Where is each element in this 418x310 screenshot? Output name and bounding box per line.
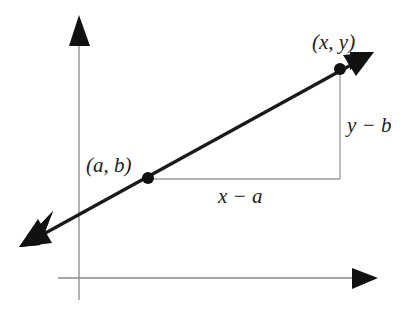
y-axis-arrow-icon [69,15,90,46]
label-x-y: (x, y) [312,30,355,54]
label-run: x − a [217,184,263,208]
x-axis-arrow-icon [352,268,378,289]
label-rise: y − b [345,113,392,137]
point-x-y [334,63,346,75]
slope-diagram: (a, b) (x, y) x − a y − b [0,0,418,310]
x-axis [58,268,378,289]
label-a-b: (a, b) [86,153,132,177]
point-a-b [142,172,154,184]
secant-line [19,52,374,247]
